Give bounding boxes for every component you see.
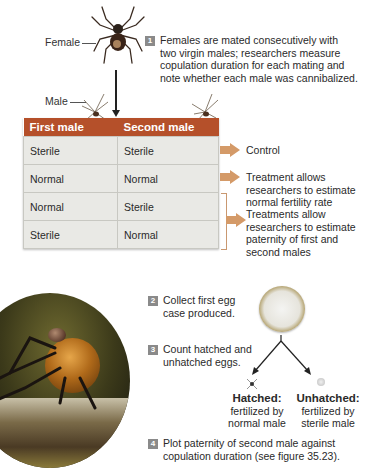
step-4: 4Plot paternity of second male against c… (148, 437, 370, 462)
experimental-design-table: First male Second male Sterile Sterile N… (23, 118, 219, 249)
cell-second-male: Sterile (118, 137, 219, 165)
table-row: Normal Sterile (24, 193, 219, 221)
note-line: second males (246, 246, 356, 259)
step-4-line-1: Plot paternity of second male against (163, 437, 335, 449)
hatched-line: normal male (222, 417, 292, 430)
note-line: researchers to estimate (246, 221, 356, 234)
cell-second-male: Normal (118, 165, 219, 193)
paternity-note: Treatments allow researchers to estimate… (246, 208, 356, 258)
hatched-line: fertilized by (222, 405, 292, 418)
step-1-badge: 1 (145, 36, 155, 46)
cell-first-male: Normal (24, 165, 118, 193)
note-line: Treatments allow (246, 208, 356, 221)
unhatched-egg-icon (317, 378, 325, 386)
unhatched-line: sterile male (290, 417, 366, 430)
hatched-title: Hatched: (222, 392, 292, 405)
unhatched-title: Unhatched: (290, 392, 366, 405)
cell-first-male: Sterile (24, 221, 118, 249)
arrow-right-icon (220, 143, 240, 157)
step-2-badge: 2 (148, 296, 158, 306)
step-3-line-2: unhatched eggs. (148, 356, 258, 369)
hatched-spiderling-icon (246, 376, 258, 388)
note-line: paternity of first and (246, 233, 356, 246)
down-arrowhead (112, 110, 120, 117)
control-note: Control (246, 144, 280, 157)
step-2: 2Collect first egg case produced. (148, 294, 258, 319)
female-label: Female (45, 36, 80, 48)
note-line: normal fertility rate (246, 196, 356, 209)
table-row: Sterile Normal (24, 221, 219, 249)
note-line: Treatment allows (246, 171, 356, 184)
spider-legs (0, 293, 130, 468)
down-arrow (115, 70, 117, 112)
step-4-badge: 4 (148, 439, 158, 449)
female-pointer-line (82, 43, 96, 44)
table-row: Sterile Sterile (24, 137, 219, 165)
hatched-label: Hatched: fertilized by normal male (222, 392, 292, 430)
spider-photo (0, 293, 130, 468)
table-row: Normal Normal (24, 165, 219, 193)
normal-fertility-note: Treatment allows researchers to estimate… (246, 171, 356, 209)
header-second-male: Second male (118, 118, 219, 137)
step-1-line-3: copulation duration for each mating and (145, 59, 370, 72)
unhatched-line: fertilized by (290, 405, 366, 418)
step-3-line-1: Count hatched and (163, 343, 252, 355)
egg-case-icon (259, 286, 305, 332)
unhatched-label: Unhatched: fertilized by sterile male (290, 392, 366, 430)
cell-first-male: Normal (24, 193, 118, 221)
step-1-line-4: note whether each male was cannibalized. (145, 72, 370, 85)
step-4-line-2: copulation duration (see figure 35.23). (148, 450, 370, 463)
step-1-line-1: Females are mated consecutively with (160, 34, 338, 46)
step-2-line-2: case produced. (148, 307, 258, 320)
cell-second-male: Normal (118, 221, 219, 249)
step-3-badge: 3 (148, 345, 158, 355)
female-spider-illustration (88, 5, 148, 65)
cell-first-male: Sterile (24, 137, 118, 165)
step-2-line-1: Collect first egg (163, 294, 235, 306)
cell-second-male: Sterile (118, 193, 219, 221)
table-header-row: First male Second male (24, 118, 219, 137)
arrow-right-icon (226, 213, 246, 227)
step-3: 3Count hatched and unhatched eggs. (148, 343, 258, 368)
step-1: 1Females are mated consecutively with tw… (145, 34, 370, 84)
step-1-line-2: two virgin males; researchers measure (145, 47, 370, 60)
male-label: Male (45, 95, 68, 107)
note-line: researchers to estimate (246, 184, 356, 197)
arrow-right-icon (220, 170, 240, 184)
header-first-male: First male (24, 118, 118, 137)
